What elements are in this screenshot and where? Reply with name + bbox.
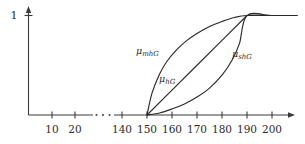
y-axis-arrowhead: [26, 6, 31, 13]
y-axis: 1: [11, 6, 33, 115]
x-axis: 10 20 140 150 160 170 180 190 200: [29, 112, 296, 136]
x-tick-label-180: 180: [212, 123, 232, 135]
curve-annotations: μmhG μhG μshG: [136, 45, 252, 86]
x-tick-label-150: 150: [137, 123, 157, 135]
curve-label-mu-shG: μshG: [232, 48, 252, 61]
x-tick-label-20: 20: [68, 123, 81, 135]
x-tick-label-200: 200: [262, 123, 282, 135]
x-axis-break-dots: [95, 114, 110, 116]
curve---shG: [147, 13, 297, 115]
curve-label-mu-hG: μhG: [159, 73, 176, 86]
curve-group: [147, 13, 297, 115]
curve---hG: [147, 16, 297, 116]
x-tick-label-10: 10: [45, 123, 58, 135]
chart-svg: 1 10 20 140: [0, 0, 305, 144]
x-tick-label-190: 190: [237, 123, 257, 135]
membership-function-chart: 1 10 20 140: [0, 0, 305, 144]
curve---mhG: [147, 15, 297, 115]
x-tick-label-160: 160: [162, 123, 182, 135]
curve-label-mu-mhG: μmhG: [136, 45, 159, 58]
y-tick-label-1: 1: [11, 9, 18, 22]
x-tick-label-140: 140: [112, 123, 132, 135]
x-axis-arrowhead: [288, 112, 295, 117]
x-tick-label-170: 170: [187, 123, 207, 135]
